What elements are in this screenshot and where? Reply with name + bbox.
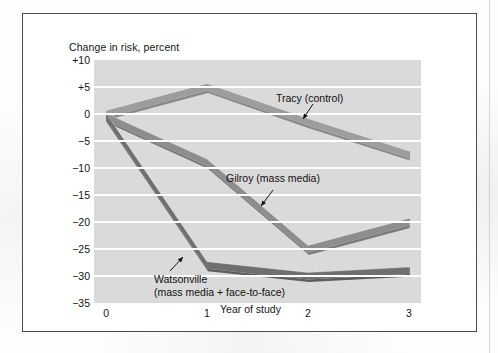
x-axis-title: Year of study: [23, 303, 478, 315]
figure-frame: Change in risk, percent +10+50−5−10−15−2…: [22, 13, 477, 332]
y-tick-label: −25: [72, 243, 90, 255]
y-tick-label: +10: [72, 54, 90, 66]
gridline: [94, 248, 421, 250]
y-tick-label: +5: [78, 81, 90, 93]
gridline: [94, 140, 421, 142]
y-axis-ticks: +10+50−5−10−15−20−25−30−35: [45, 60, 90, 303]
scan-seam: [489, 0, 490, 353]
gridline: [94, 194, 421, 196]
annotation-gilroy: Gilroy (mass media): [226, 172, 320, 185]
annotation-watsonville-line1: Watsonville: [154, 273, 285, 286]
chart-root: Change in risk, percent +10+50−5−10−15−2…: [23, 14, 478, 333]
gridline: [94, 221, 421, 223]
y-tick-label: −30: [72, 270, 90, 282]
annotation-watsonville-line2: (mass media + face-to-face): [154, 286, 285, 299]
gridline: [94, 86, 421, 88]
gridline: [94, 113, 421, 115]
annotation-watsonville: Watsonville (mass media + face-to-face): [154, 273, 285, 299]
y-tick-label: −20: [72, 216, 90, 228]
y-tick-label: −15: [72, 189, 90, 201]
tracy-ribbon: [106, 84, 409, 159]
y-axis-title: Change in risk, percent: [69, 41, 179, 53]
y-tick-label: −5: [78, 135, 90, 147]
gridline: [94, 167, 421, 169]
annotation-tracy: Tracy (control): [276, 92, 343, 105]
y-tick-label: −10: [72, 162, 90, 174]
y-tick-label: 0: [84, 108, 90, 120]
